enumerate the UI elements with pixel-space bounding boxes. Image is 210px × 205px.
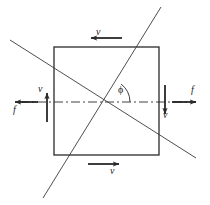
v-bottom-label: v [110, 166, 114, 176]
v-right-label: v [163, 110, 167, 120]
mechanics-diagram-figure: v v f v f v ϕ [0, 0, 210, 205]
ascending-diagonal-line [43, 7, 161, 198]
f-right-label: f [191, 85, 194, 95]
diagram-canvas [0, 0, 210, 205]
descending-diagonal-line [10, 40, 196, 158]
v-top-label: v [96, 27, 100, 37]
v-left-label: v [38, 84, 42, 94]
phi-angle-label: ϕ [118, 85, 123, 95]
f-left-label: f [13, 105, 16, 115]
